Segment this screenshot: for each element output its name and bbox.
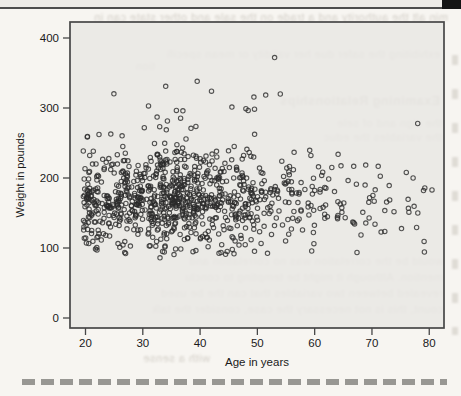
y-tick-label: 400 bbox=[40, 32, 59, 44]
x-tick-label: 50 bbox=[251, 337, 264, 349]
x-tick-label: 60 bbox=[308, 337, 321, 349]
y-tick-label: 200 bbox=[40, 172, 59, 184]
x-tick-label: 20 bbox=[79, 337, 92, 349]
x-tick-label: 30 bbox=[136, 337, 149, 349]
y-tick-label: 100 bbox=[40, 242, 59, 254]
x-axis-title: Age in years bbox=[225, 356, 289, 368]
scanned-textbook-page: { "page": {"background": "#f7f5f1"}, "he… bbox=[0, 0, 461, 396]
y-tick-label: 300 bbox=[40, 102, 59, 114]
x-tick-label: 80 bbox=[423, 337, 436, 349]
y-tick-label: 0 bbox=[53, 312, 59, 324]
x-tick-label: 40 bbox=[194, 337, 207, 349]
age-weight-scatter-plot: 010020030040020304050607080Age in yearsW… bbox=[0, 0, 461, 396]
y-axis-title: Weight in pounds bbox=[14, 132, 26, 217]
x-tick-label: 70 bbox=[366, 337, 379, 349]
